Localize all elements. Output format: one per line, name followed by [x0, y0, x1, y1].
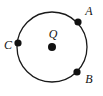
geometry-figure: Q A B C — [0, 0, 103, 96]
circumference-point-dot-b — [73, 68, 80, 75]
circumference-point-dot-c — [14, 39, 21, 46]
circumference-point-dot-a — [74, 18, 81, 25]
point-label-a: A — [85, 5, 92, 17]
center-point-dot — [48, 43, 56, 51]
point-label-b: B — [85, 73, 92, 85]
center-point-label: Q — [49, 28, 58, 40]
point-label-c: C — [4, 39, 12, 51]
